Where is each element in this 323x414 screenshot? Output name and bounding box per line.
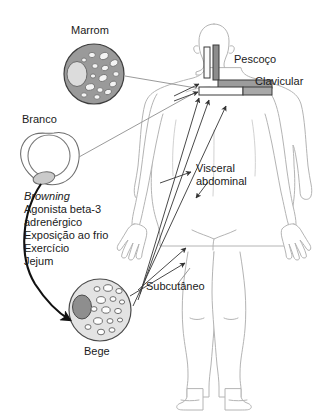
arrow-to-clavicular-depot	[174, 92, 198, 101]
browning-item-2: Exposição ao frio	[24, 229, 108, 242]
arrow-to-visceral-abdominal	[160, 172, 191, 183]
browning-item-4: Jejum	[24, 255, 53, 268]
depot-label-pescoco: Pescoço	[234, 53, 276, 66]
leader-white-to-body	[79, 92, 196, 157]
arrow-beige-to-chest	[133, 106, 226, 306]
arrow-to-neck-depot	[174, 84, 199, 96]
adipose-tissue-diagram: Marrom Branco Bege Browning Agonista bet…	[0, 0, 323, 414]
arrow-beige-to-clavicular	[140, 98, 199, 294]
depot-label-subcutaneo: Subcutâneo	[146, 280, 205, 293]
leader-brown-to-body	[125, 76, 196, 88]
cell-label-branco: Branco	[22, 113, 57, 126]
cell-label-bege: Bege	[84, 345, 110, 358]
depot-label-visceral-abdominal-line1: Visceral	[196, 162, 235, 175]
browning-heading: Browning	[24, 190, 70, 203]
browning-item-0: Agonista beta-3	[24, 203, 101, 216]
depot-label-visceral-abdominal-line2: abdominal	[196, 175, 247, 188]
browning-item-3: Exercício	[24, 242, 69, 255]
depot-label-clavicular: Clavicular	[255, 75, 303, 88]
cell-label-marrom: Marrom	[71, 24, 109, 37]
browning-item-1: adrenérgico	[24, 216, 82, 229]
